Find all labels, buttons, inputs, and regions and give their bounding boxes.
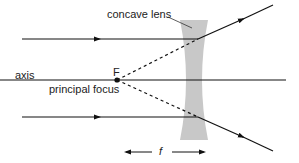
principal-focus-label: principal focus (49, 84, 119, 95)
concave-lens-diagram (0, 0, 299, 163)
lens-label: concave lens (107, 9, 171, 20)
focal-length-label: f (159, 146, 162, 157)
focus-point-label: F (113, 67, 120, 78)
axis-label: axis (15, 70, 35, 81)
focus-point (114, 77, 119, 82)
